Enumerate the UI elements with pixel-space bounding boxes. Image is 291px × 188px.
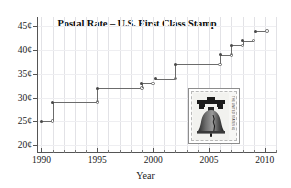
- y-tick-mark: [33, 50, 38, 51]
- y-tick-label: 20¢: [18, 140, 32, 150]
- gridline-horizontal: [37, 50, 276, 51]
- x-tick-mark-minor: [53, 150, 54, 153]
- step-riser: [97, 88, 98, 102]
- y-tick-mark: [33, 145, 38, 146]
- step-riser: [53, 102, 54, 121]
- x-axis-title: Year: [0, 170, 291, 181]
- x-tick-mark-minor: [142, 150, 143, 153]
- x-tick-mark: [41, 148, 42, 153]
- gridline-vertical: [131, 17, 132, 152]
- data-point-end: [252, 39, 256, 43]
- gridline-vertical: [243, 17, 244, 152]
- gridline-horizontal: [37, 26, 276, 27]
- gridline-vertical: [120, 17, 121, 152]
- x-tick-mark-minor: [231, 150, 232, 153]
- data-point-start: [96, 87, 99, 90]
- x-tick-label: 1995: [77, 155, 117, 165]
- data-point-start: [230, 44, 233, 47]
- step-riser: [220, 55, 221, 64]
- gridline-vertical: [97, 17, 98, 152]
- gridline-vertical: [276, 17, 277, 152]
- data-point-start: [154, 77, 157, 80]
- gridline-vertical: [265, 17, 266, 152]
- x-tick-mark-minor: [220, 150, 221, 153]
- y-tick-mark: [33, 26, 38, 27]
- y-tick-label: 40¢: [18, 45, 32, 55]
- data-point-start: [219, 53, 222, 56]
- step-segment: [53, 102, 98, 103]
- liberty-bell-stamp-inset: THE UNITED STATES 41: [188, 88, 240, 144]
- chart-figure: Postal Rate – U.S. First Class Stamp 20¢…: [0, 0, 291, 188]
- y-tick-label: 45¢: [18, 21, 32, 31]
- data-point-start: [254, 30, 257, 33]
- x-tick-mark-minor: [243, 150, 244, 153]
- gridline-vertical: [86, 17, 87, 152]
- step-segment: [97, 88, 142, 89]
- y-tick-mark: [33, 121, 38, 122]
- data-point-start: [40, 120, 43, 123]
- y-tick-mark: [33, 74, 38, 75]
- y-tick-mark: [33, 98, 38, 99]
- data-point-start: [174, 63, 177, 66]
- plot-area: [37, 17, 276, 152]
- x-tick-mark-minor: [187, 150, 188, 153]
- gridline-horizontal: [37, 121, 276, 122]
- x-tick-mark-minor: [131, 150, 132, 153]
- x-tick-mark: [265, 148, 266, 153]
- y-tick-label: 35¢: [18, 69, 32, 79]
- step-riser: [175, 64, 176, 78]
- liberty-bell-icon: [193, 93, 229, 141]
- y-tick-label: 25¢: [18, 116, 32, 126]
- x-tick-mark: [209, 148, 210, 153]
- gridline-horizontal: [37, 98, 276, 99]
- data-point-start: [241, 39, 244, 42]
- x-tick-mark-minor: [175, 150, 176, 153]
- gridline-horizontal: [37, 74, 276, 75]
- data-point-end: [151, 82, 155, 86]
- x-tick-mark: [97, 148, 98, 153]
- gridline-vertical: [254, 17, 255, 152]
- x-tick-mark-minor: [164, 150, 165, 153]
- gridline-vertical: [175, 17, 176, 152]
- x-tick-mark-minor: [120, 150, 121, 153]
- x-tick-mark: [153, 148, 154, 153]
- data-point-end: [265, 29, 269, 33]
- x-tick-mark-minor: [86, 150, 87, 153]
- stamp-side-text: THE UNITED STATES 41: [227, 96, 235, 138]
- x-tick-label: 2000: [133, 155, 173, 165]
- gridline-vertical: [164, 17, 165, 152]
- x-tick-label: 2010: [245, 155, 285, 165]
- x-axis-line: [37, 152, 277, 153]
- y-tick-label: 30¢: [18, 93, 32, 103]
- x-tick-mark-minor: [254, 150, 255, 153]
- x-tick-label: 2005: [189, 155, 229, 165]
- gridline-vertical: [64, 17, 65, 152]
- step-segment: [155, 79, 175, 80]
- x-tick-mark-minor: [276, 150, 277, 153]
- gridline-horizontal: [37, 145, 276, 146]
- gridline-vertical: [75, 17, 76, 152]
- stamp-border: THE UNITED STATES 41: [191, 91, 237, 141]
- gridline-vertical: [53, 17, 54, 152]
- x-tick-mark-minor: [64, 150, 65, 153]
- x-tick-mark-minor: [198, 150, 199, 153]
- step-segment: [175, 64, 220, 65]
- x-tick-label: 1990: [21, 155, 61, 165]
- x-tick-mark-minor: [108, 150, 109, 153]
- x-tick-mark-minor: [75, 150, 76, 153]
- data-point-start: [51, 101, 54, 104]
- gridline-vertical: [41, 17, 42, 152]
- gridline-vertical: [108, 17, 109, 152]
